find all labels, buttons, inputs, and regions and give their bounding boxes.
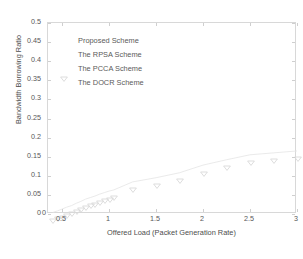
y-tick-label: 0.15: [27, 152, 41, 160]
x-tick-label: 2.5: [244, 215, 254, 223]
data-point: [200, 163, 207, 168]
x-axis-tick-top: [203, 23, 204, 26]
origin-label: 0: [42, 209, 46, 217]
x-axis-tick-top: [62, 23, 63, 26]
y-axis-tick-right: [292, 80, 295, 81]
data-point: [153, 175, 160, 180]
data-point: [223, 157, 230, 162]
y-axis-title: Bandwidth Borrowing Ratio: [14, 10, 23, 150]
x-tick-label: 0.5: [56, 215, 66, 223]
y-tick-label: 0.4: [31, 56, 41, 64]
y-axis-tick: [48, 195, 51, 196]
y-tick-label: 0.45: [27, 37, 41, 45]
x-axis-tick-top: [156, 23, 157, 26]
x-axis-tick-top: [109, 23, 110, 26]
x-tick-label: 2: [200, 215, 204, 223]
x-axis-tick-labels: 0.511.522.530: [0, 215, 303, 227]
y-axis-tick: [48, 61, 51, 62]
legend: Proposed SchemeThe RPSA SchemeThe PCCA S…: [78, 36, 208, 92]
y-tick-label: 0.1: [31, 171, 41, 179]
data-point: [294, 148, 301, 153]
y-tick-label: 0.5: [31, 18, 41, 26]
y-axis-tick: [48, 23, 51, 24]
y-axis-tick: [48, 138, 51, 139]
y-tick-label: 0.35: [27, 75, 41, 83]
y-tick-label: 0.05: [27, 190, 41, 198]
y-axis-tick-right: [292, 138, 295, 139]
y-tick-label: 0.25: [27, 114, 41, 122]
y-axis-tick: [48, 176, 51, 177]
y-axis-tick-right: [292, 42, 295, 43]
x-axis-title: Offered Load (Packet Generation Rate): [47, 228, 296, 237]
y-axis-tick: [48, 99, 51, 100]
legend-item-label: The DOCR Scheme: [78, 78, 144, 87]
y-axis-tick-right: [292, 195, 295, 196]
y-axis-tick-right: [292, 176, 295, 177]
legend-item-label: The RPSA Scheme: [78, 50, 142, 59]
y-axis-tick-right: [292, 61, 295, 62]
x-axis-tick: [297, 209, 298, 212]
data-point: [176, 170, 183, 175]
x-axis-tick: [203, 209, 204, 212]
x-tick-label: 1: [106, 215, 110, 223]
x-axis-tick-top: [297, 23, 298, 26]
y-axis-tick-right: [292, 157, 295, 158]
y-tick-label: 0.2: [31, 133, 41, 141]
x-axis-tick: [62, 209, 63, 212]
y-axis-tick: [48, 157, 51, 158]
data-point: [110, 187, 117, 192]
x-tick-label: 1.5: [150, 215, 160, 223]
data-point: [247, 152, 254, 157]
legend-marker-icon: [60, 68, 67, 73]
legend-item: The RPSA Scheme: [78, 50, 208, 64]
chart-figure: 00.050.10.150.20.250.30.350.40.450.5 0.5…: [0, 0, 303, 259]
x-axis-tick: [109, 209, 110, 212]
legend-item: The DOCR Scheme: [78, 78, 208, 92]
y-axis-tick: [48, 119, 51, 120]
legend-item-label: The PCCA Scheme: [78, 64, 142, 73]
x-tick-label: 3: [294, 215, 298, 223]
legend-item-label: Proposed Scheme: [78, 36, 139, 45]
y-axis-tick-right: [292, 99, 295, 100]
y-axis-tick: [48, 80, 51, 81]
x-axis-tick: [250, 209, 251, 212]
y-axis-tick-right: [292, 119, 295, 120]
legend-item: The PCCA Scheme: [78, 64, 208, 78]
legend-item: Proposed Scheme: [78, 36, 208, 50]
data-point: [129, 179, 136, 184]
data-point: [270, 150, 277, 155]
x-axis-tick: [156, 209, 157, 212]
y-axis-tick: [48, 42, 51, 43]
y-axis-tick-right: [292, 23, 295, 24]
y-tick-label: 0.3: [31, 94, 41, 102]
x-axis-tick-top: [250, 23, 251, 26]
